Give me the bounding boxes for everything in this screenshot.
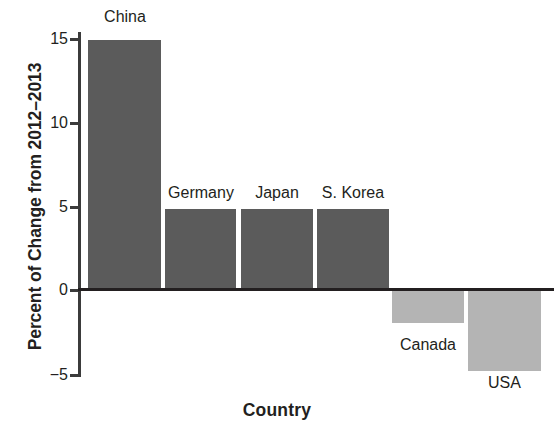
bar-germany [165,209,236,289]
y-tick-label-0: 0 [8,282,68,298]
bar-label-s-korea: S. Korea [308,184,398,201]
bar-label-usa: USA [468,374,541,391]
bar-china [88,40,161,289]
bar-japan [241,209,313,289]
y-tick-mark-minus-5 [70,374,81,377]
bar-s-korea [317,209,389,289]
y-axis-line [78,32,81,377]
bar-label-germany: Germany [157,184,245,201]
y-tick-label-minus-5: −5 [8,367,68,383]
y-tick-mark-5 [70,206,81,209]
y-tick-mark-10 [70,122,81,125]
bar-label-japan: Japan [237,184,317,201]
y-tick-label-5: 5 [8,199,68,215]
bar-label-canada: Canada [385,336,471,353]
y-tick-mark-15 [70,38,81,41]
x-axis-title: Country [0,400,554,421]
bar-canada [392,291,464,323]
bar-chart: Percent of Change from 2012–2013 15 10 5… [0,0,554,442]
bar-label-china: China [84,8,166,25]
y-tick-label-15: 15 [8,31,68,47]
bar-usa [468,291,541,371]
y-tick-label-10: 10 [8,115,68,131]
